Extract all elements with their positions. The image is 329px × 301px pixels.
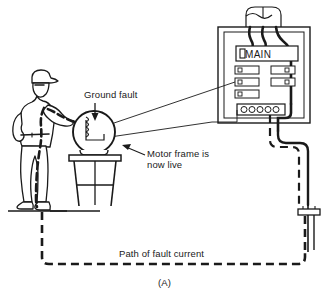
branch-breaker-5-toggle[interactable] xyxy=(238,92,242,96)
ground-fault-diagram-figure: Ground fault Motor frame isnow live Path… xyxy=(0,0,329,301)
branch-breaker-2-toggle[interactable] xyxy=(285,68,289,72)
bus-terminal-5[interactable] xyxy=(273,107,279,113)
bus-terminal-3[interactable] xyxy=(257,107,263,113)
motor-frame-label: Motor frame isnow live xyxy=(147,148,209,170)
ground-rod-clamp xyxy=(298,209,320,215)
branch-breaker-1-toggle[interactable] xyxy=(238,68,242,72)
worker-shoe-left xyxy=(17,202,33,209)
bus-terminal-1[interactable] xyxy=(241,107,247,113)
motor-frame-label-line1: Motor frame is xyxy=(147,148,209,159)
branch-breaker-4-toggle[interactable] xyxy=(285,80,289,84)
ground-rod-group xyxy=(278,131,320,252)
worker-torso xyxy=(20,96,55,147)
ground-fault-label: Ground fault xyxy=(84,89,137,100)
motor-frame-label-line2: now live xyxy=(147,159,182,170)
worker-cap xyxy=(32,70,58,83)
motor-group xyxy=(69,111,121,206)
stool-leg-left xyxy=(74,161,79,206)
electrical-panel-group xyxy=(218,7,310,131)
branch-breaker-4[interactable] xyxy=(271,78,295,86)
stool-top xyxy=(69,155,121,161)
worker-belt xyxy=(21,134,49,135)
worker-figure xyxy=(13,70,74,210)
service-entrance-cable xyxy=(246,7,281,27)
figure-caption: (A) xyxy=(0,277,329,288)
stool-leg-right xyxy=(111,161,116,206)
bus-terminal-4[interactable] xyxy=(265,107,271,113)
branch-breaker-2[interactable] xyxy=(271,66,295,74)
branch-breaker-3-toggle[interactable] xyxy=(238,80,242,84)
worker-legs xyxy=(21,146,48,202)
main-breaker-label: MAIN xyxy=(245,49,271,60)
fault-current-path-label: Path of fault current xyxy=(119,248,204,259)
stool xyxy=(69,155,121,206)
grounding-electrode-conductor xyxy=(278,131,308,205)
neutral-bus-bar[interactable] xyxy=(237,104,285,115)
bus-terminal-2[interactable] xyxy=(249,107,255,113)
